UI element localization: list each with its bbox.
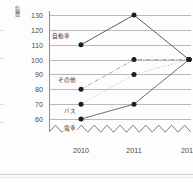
series-label-バス: バス (63, 107, 77, 115)
bottom-divider (0, 174, 193, 175)
data-point (132, 72, 137, 77)
data-point (187, 57, 192, 62)
data-point (79, 42, 84, 47)
y-tick-label: 130 (20, 11, 43, 20)
series-2 (79, 57, 192, 107)
page-edge-mark (0, 30, 4, 31)
series-line (81, 15, 189, 60)
plot-area: 201020112012年 自動車その他バス電車 (49, 0, 191, 182)
y-axis-title: 指数 (14, 6, 19, 16)
data-point (79, 117, 84, 122)
series-label-その他: その他 (57, 76, 77, 84)
x-tick-label: 2012 (181, 146, 193, 155)
y-tick-label: 80 (20, 85, 43, 94)
page-edge-mark (0, 104, 4, 105)
data-point (132, 57, 137, 62)
y-tick-label: 110 (20, 40, 43, 49)
y-tick-label: 60 (20, 115, 43, 124)
data-point (132, 102, 137, 107)
chart-figure: 指数 13012011010090807060 201020112012年 自動… (0, 0, 193, 182)
bottom-divider-secondary (0, 177, 193, 178)
data-point (132, 13, 137, 18)
data-point (79, 102, 84, 107)
series-label-電車: 電車 (63, 124, 77, 132)
series-line (81, 60, 189, 105)
y-tick-label: 120 (20, 25, 43, 34)
data-point (79, 87, 84, 92)
series-layer (49, 0, 191, 182)
y-tick-label: 100 (20, 55, 43, 64)
series-line (81, 60, 189, 119)
x-tick-label: 2010 (73, 146, 89, 155)
series-0 (79, 13, 192, 63)
series-label-自動車: 自動車 (51, 32, 71, 40)
series-3 (79, 57, 192, 121)
x-tick-label: 2011 (126, 146, 141, 155)
page-edge-mark (0, 122, 4, 123)
y-tick-label: 90 (20, 70, 43, 79)
y-tick-label: 70 (20, 100, 43, 109)
page-edge-mark (0, 58, 4, 59)
y-axis-tick-labels: 13012011010090807060 (20, 0, 43, 182)
